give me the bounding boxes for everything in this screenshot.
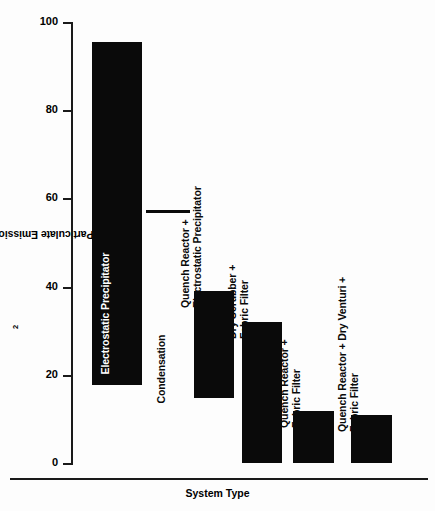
bar-label-line-2: Electrostatic Precipitator xyxy=(191,186,203,308)
bar-label-quench-reactor-electrostatic-precipitator: Quench Reactor +Electrostatic Precipitat… xyxy=(180,186,203,308)
y-tick-100 xyxy=(63,22,72,24)
bar-dry-scrubber-fabric-filter[interactable] xyxy=(242,322,282,463)
y-tick-label-100: 100 xyxy=(18,16,58,27)
x-axis-title: System Type xyxy=(0,487,435,499)
chart-bottom-border xyxy=(10,478,428,480)
bar-label-line-1: Dry Scrubber + xyxy=(226,265,238,339)
y-tick-60 xyxy=(63,198,72,200)
particulate-emission-chart: Particulate Emission mg/NCM (12% C02) 10… xyxy=(0,0,435,511)
y-tick-0 xyxy=(63,463,72,465)
y-tick-label-0: 0 xyxy=(18,457,58,468)
y-tick-80 xyxy=(63,110,72,112)
y-axis-title-subscript: 2 xyxy=(12,325,21,329)
bar-label-line-2: Fabric Filter xyxy=(348,373,360,432)
y-tick-label-60: 60 xyxy=(18,192,58,203)
bar-label-line-2: Fabric Filter xyxy=(290,369,302,428)
bar-label-dry-scrubber-fabric-filter: Dry Scrubber +Fabric Filter xyxy=(227,265,250,339)
y-tick-40 xyxy=(63,287,72,289)
y-tick-label-40: 40 xyxy=(18,281,58,292)
y-axis-title: Particulate Emission mg/NCM (12% C02) xyxy=(2,0,24,470)
bar-label-electrostatic-precipitator: Electrostatic Precipitator xyxy=(100,253,112,375)
bar-label-line-2: Fabric Filter xyxy=(238,280,250,339)
y-tick-label-20: 20 xyxy=(18,369,58,380)
bar-label-line-1: Quench Reactor + xyxy=(179,219,191,308)
bar-label-condensation: Condensation xyxy=(156,335,168,404)
y-tick-20 xyxy=(63,375,72,377)
bar-label-quench-reactor-dry-venturi-fabric-filter: Quench Reactor + Dry Venturi +Fabric Fil… xyxy=(337,277,360,432)
y-axis-line xyxy=(71,22,73,465)
y-tick-label-80: 80 xyxy=(18,104,58,115)
bar-label-line-1: Quench Reactor + Dry Venturi + xyxy=(336,277,348,432)
bar-label-quench-reactor-fabric-filter: Quench Reactor +Fabric Filter xyxy=(279,339,302,428)
bar-label-line-1: Quench Reactor + xyxy=(278,339,290,428)
